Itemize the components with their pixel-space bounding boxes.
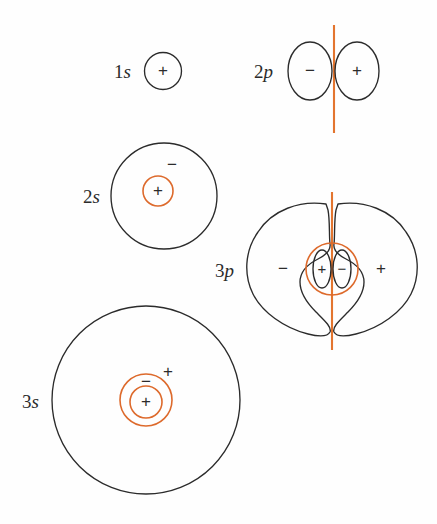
orbital-3s-outer-sign: + bbox=[163, 362, 173, 381]
orbital-3p-outer-right-sign: + bbox=[376, 259, 386, 278]
orbital-diagram-canvas: 1s + 2p − + 2s + − 3p bbox=[0, 0, 437, 524]
orbital-1s-label: 1s bbox=[114, 61, 131, 82]
orbital-3s: 3s + − + bbox=[22, 306, 240, 494]
orbital-1s: 1s + bbox=[114, 53, 182, 90]
orbital-2s-outer-sign: − bbox=[167, 155, 177, 174]
orbital-1s-core-sign: + bbox=[158, 61, 168, 80]
orbital-3s-core-sign: + bbox=[141, 392, 151, 411]
orbital-2s-core-sign: + bbox=[153, 181, 163, 200]
orbital-figure: 1s + 2p − + 2s + − 3p bbox=[0, 0, 437, 524]
orbital-2p-left-sign: − bbox=[305, 61, 315, 80]
orbital-3s-label: 3s bbox=[22, 391, 39, 412]
orbital-2s-label: 2s bbox=[83, 186, 100, 207]
orbital-2p-right-sign: + bbox=[352, 61, 362, 80]
orbital-2p: 2p − + bbox=[254, 25, 379, 133]
orbital-2s-outer-contour bbox=[111, 143, 217, 249]
orbital-3p-inner-right-sign: − bbox=[338, 260, 347, 277]
orbital-3p-outer-left-sign: − bbox=[278, 259, 288, 278]
orbital-3s-middle-sign: − bbox=[141, 372, 151, 391]
orbital-2s: 2s + − bbox=[83, 143, 217, 249]
orbital-3p: 3p − + − + bbox=[215, 192, 417, 350]
orbital-3p-label: 3p bbox=[215, 260, 234, 281]
orbital-2p-label: 2p bbox=[254, 61, 273, 82]
orbital-3p-inner-left-sign: + bbox=[318, 260, 327, 277]
